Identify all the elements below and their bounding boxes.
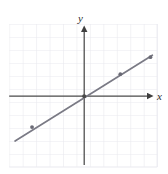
coordinate-plane-graph: y x <box>0 0 168 174</box>
data-point <box>118 72 122 76</box>
figure-root: y x <box>0 0 168 174</box>
data-point <box>149 55 153 59</box>
origin-point <box>82 94 86 98</box>
x-axis-label: x <box>156 90 162 102</box>
data-point <box>30 125 34 129</box>
y-axis-label: y <box>77 12 83 24</box>
